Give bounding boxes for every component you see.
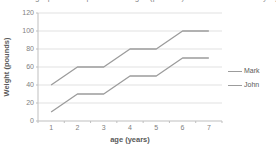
x-tick-label: 6	[173, 124, 193, 132]
x-axis-title: age (years)	[70, 135, 190, 144]
x-tick-label: 4	[120, 124, 140, 132]
legend-item-mark: Mark	[228, 64, 260, 78]
y-tick-label: 60	[12, 63, 34, 71]
x-tick-label: 1	[41, 124, 61, 132]
x-tick-label: 7	[199, 124, 219, 132]
legend-item-john: John	[228, 78, 260, 92]
y-tick-label: 20	[12, 99, 34, 107]
x-tick-label: 5	[146, 124, 166, 132]
legend: Mark John	[228, 64, 260, 92]
y-tick-label: 40	[12, 81, 34, 89]
chart-image: Use the graph to compare the weight (pou…	[0, 0, 276, 155]
y-axis-title: Weight (pounds)	[2, 12, 12, 122]
y-tick-label: 100	[12, 27, 34, 35]
x-tick-label: 3	[94, 124, 114, 132]
legend-line-sample	[228, 85, 242, 86]
y-tick-label: 120	[12, 9, 34, 17]
x-tick-label: 2	[67, 124, 87, 132]
legend-label: John	[244, 81, 259, 89]
legend-label: Mark	[244, 67, 260, 75]
y-tick-label: 80	[12, 45, 34, 53]
y-tick-label: 0	[12, 117, 34, 125]
legend-line-sample	[228, 71, 242, 72]
